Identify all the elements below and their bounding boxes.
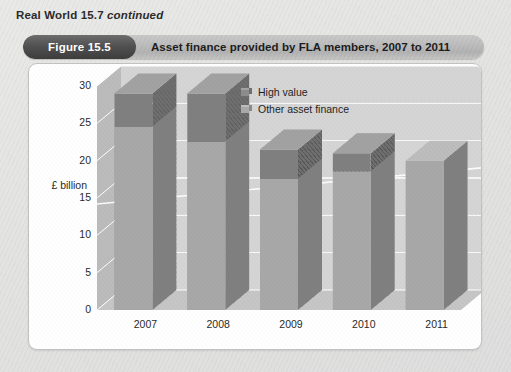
legend-swatch-icon-other-asset bbox=[241, 105, 252, 113]
swatch-top-face bbox=[241, 105, 249, 107]
texture-line bbox=[29, 64, 41, 349]
bar-side-2007-other-asset-finance bbox=[152, 107, 176, 310]
y-tick-label-0: 0 bbox=[65, 303, 91, 315]
real-world-label: Real World 15.7 bbox=[16, 9, 104, 21]
x-tick-label-2011: 2011 bbox=[414, 318, 460, 330]
legend-label: High value bbox=[258, 86, 308, 98]
swatch-front-face bbox=[241, 107, 249, 113]
texture-line bbox=[29, 64, 65, 349]
x-tick-label-2008: 2008 bbox=[195, 318, 241, 330]
legend-item-other-asset: Other asset finance bbox=[241, 101, 349, 116]
y-tick-label-30: 30 bbox=[65, 79, 91, 91]
x-tick-label-2007: 2007 bbox=[122, 318, 168, 330]
figure-number-badge: Figure 15.5 bbox=[23, 35, 136, 59]
swatch-side-face bbox=[249, 88, 252, 94]
swatch-front-face bbox=[241, 90, 249, 96]
legend-swatch-icon-high-value bbox=[241, 88, 252, 96]
y-axis-title: £ billion bbox=[31, 179, 87, 191]
real-world-header: Real World 15.7 continued bbox=[16, 9, 163, 21]
texture-line bbox=[29, 64, 49, 349]
figure-title-bar: Figure 15.5 Asset finance provided by FL… bbox=[23, 35, 484, 59]
chart-legend: High valueOther asset finance bbox=[241, 84, 349, 118]
legend-item-high-value: High value bbox=[241, 84, 349, 99]
x-tick-label-2010: 2010 bbox=[341, 318, 387, 330]
y-tick-label-15: 15 bbox=[65, 191, 91, 203]
y-tick-label-20: 20 bbox=[65, 154, 91, 166]
y-tick-label-5: 5 bbox=[65, 266, 91, 278]
y-tick-label-10: 10 bbox=[65, 228, 91, 240]
swatch-top-face bbox=[241, 88, 249, 90]
chart-card: 05101520253020072008200920102011£ billio… bbox=[28, 63, 482, 350]
continued-label: continued bbox=[107, 9, 163, 21]
x-tick-label-2009: 2009 bbox=[268, 318, 314, 330]
y-tick-label-25: 25 bbox=[65, 116, 91, 128]
legend-label: Other asset finance bbox=[258, 103, 349, 115]
swatch-side-face bbox=[249, 105, 252, 111]
figure-title: Asset finance provided by FLA members, 2… bbox=[151, 35, 450, 59]
page-background: Real World 15.7 continued Figure 15.5 As… bbox=[0, 0, 511, 372]
